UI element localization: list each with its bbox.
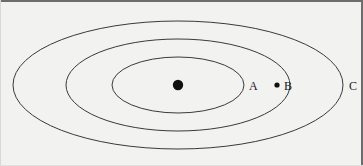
ellipse-label-c: C [349,80,357,92]
center-dot [173,80,183,90]
frame-border-bottom [0,165,363,166]
frame-border-left [0,0,1,166]
frame-border-top [0,0,363,2]
ellipse-diagram-figure: A B C [0,0,363,166]
ellipse-label-b: B [284,80,292,92]
point-b-marker [274,82,279,87]
diagram-canvas [0,0,363,166]
ellipse-label-a: A [249,80,258,92]
